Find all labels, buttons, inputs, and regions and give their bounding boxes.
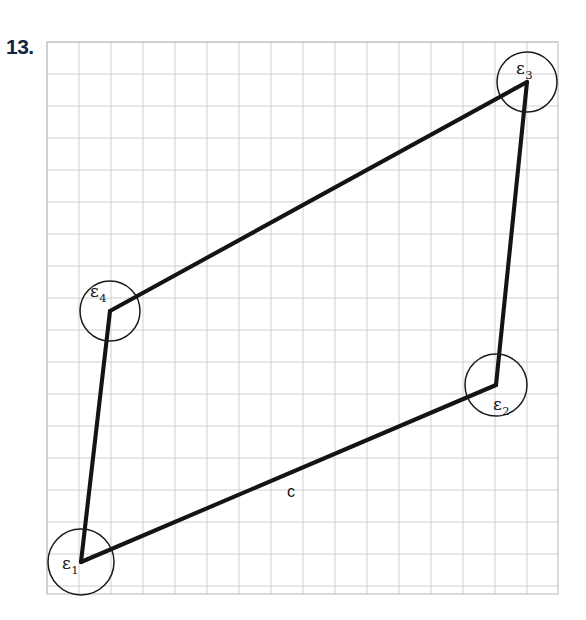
geometry-figure: ε1ε2ε3ε4 c bbox=[0, 0, 586, 620]
vertex-subscript-e3: 3 bbox=[525, 68, 532, 82]
side-label-c: c bbox=[287, 483, 295, 500]
vertex-label-e4: ε4 bbox=[90, 281, 107, 305]
polygon-edge-e4-e3 bbox=[110, 82, 527, 311]
vertex-label-e1: ε1 bbox=[62, 553, 79, 577]
vertex-label-e2: ε2 bbox=[493, 394, 510, 418]
vertex-subscript-e4: 4 bbox=[99, 291, 106, 305]
vertex-subscript-e1: 1 bbox=[71, 563, 78, 577]
polygon-edge-e1-e4 bbox=[81, 311, 110, 562]
polygon-edge-e3-e2 bbox=[496, 82, 527, 385]
worksheet-page: 13. ε1ε2ε3ε4 c bbox=[0, 0, 586, 620]
grid-background bbox=[47, 42, 558, 594]
vertex-labels: ε1ε2ε3ε4 bbox=[62, 58, 533, 577]
angle-arcs bbox=[48, 52, 557, 595]
vertex-subscript-e2: 2 bbox=[502, 404, 509, 418]
grid-border bbox=[47, 42, 558, 594]
side-labels: c bbox=[287, 483, 295, 500]
vertex-label-e3: ε3 bbox=[516, 58, 533, 82]
